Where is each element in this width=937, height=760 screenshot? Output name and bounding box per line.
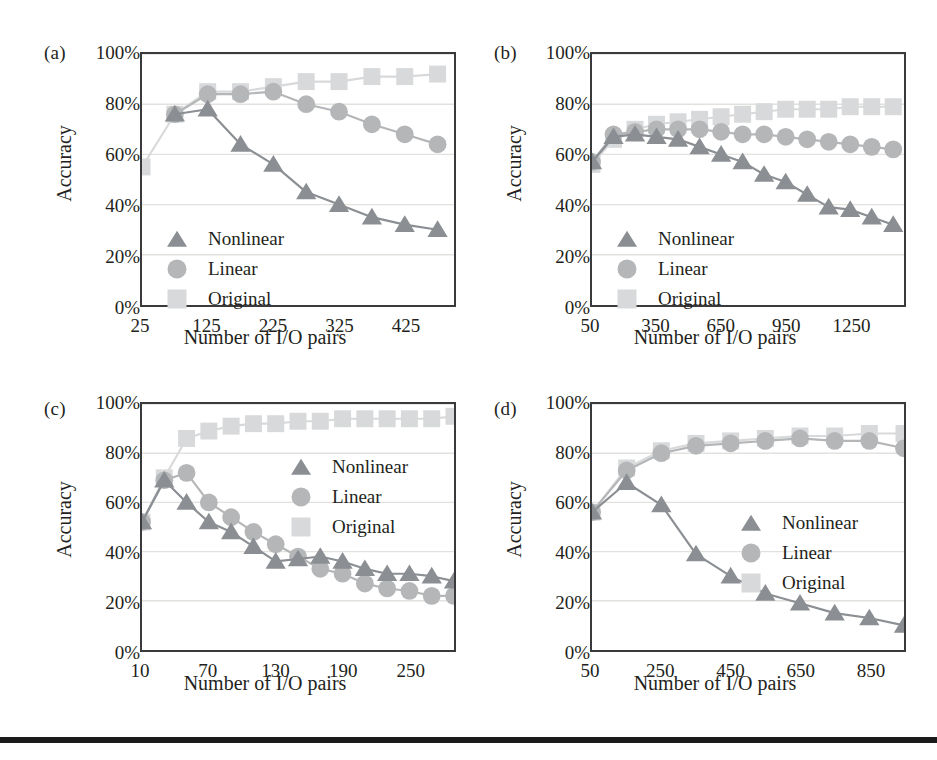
chart-panel-c: (c) Accuracy 0%20%40%60%80%100% 10701301… [30,390,470,720]
y-tick-label: 0% [518,298,590,317]
y-tick-label: 20% [68,593,140,612]
legend-label-linear: Linear [200,258,258,280]
legend-row-original[interactable]: Original [604,284,734,314]
legend-label-linear: Linear [774,542,832,564]
y-tick-label: 0% [68,298,140,317]
y-tick-label: 40% [518,196,590,215]
y-axis-ticks-c: 0%20%40%60%80%100% [62,390,140,720]
y-tick-label: 40% [68,543,140,562]
square-marker-icon [278,516,324,538]
triangle-marker-icon [728,512,774,534]
y-tick-label: 20% [518,247,590,266]
triangle-marker-icon [154,228,200,250]
legend-row-original[interactable]: Original [728,568,858,598]
y-axis-ticks-d: 0%20%40%60%80%100% [512,390,590,720]
legend-a: Nonlinear Linear Original [154,224,284,314]
legend-label-original: Original [200,288,271,310]
circle-marker-icon [278,486,324,508]
legend-label-linear: Linear [650,258,708,280]
square-marker-icon [154,288,200,310]
chart-panel-a: (a) Accuracy 0%20%40%60%80%100% 25125225… [30,34,470,374]
legend-row-linear[interactable]: Linear [604,254,734,284]
legend-row-nonlinear[interactable]: Nonlinear [728,508,858,538]
legend-row-original[interactable]: Original [154,284,284,314]
y-tick-label: 20% [68,247,140,266]
y-tick-label: 100% [68,393,140,412]
legend-label-nonlinear: Nonlinear [324,456,408,478]
y-tick-label: 80% [518,94,590,113]
figure-root: (a) Accuracy 0%20%40%60%80%100% 25125225… [0,0,937,760]
legend-row-nonlinear[interactable]: Nonlinear [154,224,284,254]
x-axis-label-d: Number of I/O pairs [550,672,880,695]
legend-label-linear: Linear [324,486,382,508]
y-tick-label: 100% [518,393,590,412]
legend-row-linear[interactable]: Linear [278,482,408,512]
chart-panel-b: (b) Accuracy 0%20%40%60%80%100% 50350650… [480,34,920,374]
legend-row-original[interactable]: Original [278,512,408,542]
x-axis-label-c: Number of I/O pairs [100,672,430,695]
y-tick-label: 60% [68,145,140,164]
y-tick-label: 40% [518,543,590,562]
chart-panel-d: (d) Accuracy 0%20%40%60%80%100% 50250450… [480,390,920,720]
legend-label-original: Original [324,516,395,538]
legend-label-nonlinear: Nonlinear [200,228,284,250]
y-tick-label: 0% [68,643,140,662]
legend-row-linear[interactable]: Linear [154,254,284,284]
legend-row-nonlinear[interactable]: Nonlinear [604,224,734,254]
y-tick-label: 20% [518,593,590,612]
y-tick-label: 40% [68,196,140,215]
y-tick-label: 80% [68,94,140,113]
legend-label-nonlinear: Nonlinear [650,228,734,250]
x-axis-label-a: Number of I/O pairs [100,326,430,349]
square-marker-icon [604,288,650,310]
triangle-marker-icon [604,228,650,250]
legend-c: Nonlinear Linear Original [278,452,408,542]
legend-label-original: Original [650,288,721,310]
legend-row-linear[interactable]: Linear [728,538,858,568]
y-tick-label: 60% [518,493,590,512]
bottom-rule-divider [0,737,937,743]
y-tick-label: 60% [518,145,590,164]
legend-label-nonlinear: Nonlinear [774,512,858,534]
circle-marker-icon [728,542,774,564]
triangle-marker-icon [278,456,324,478]
y-tick-label: 0% [518,643,590,662]
x-axis-label-b: Number of I/O pairs [550,326,880,349]
circle-marker-icon [604,258,650,280]
legend-b: Nonlinear Linear Original [604,224,734,314]
y-axis-ticks-b: 0%20%40%60%80%100% [512,34,590,374]
y-tick-label: 100% [518,43,590,62]
legend-label-original: Original [774,572,845,594]
legend-row-nonlinear[interactable]: Nonlinear [278,452,408,482]
y-tick-label: 100% [68,43,140,62]
y-axis-ticks-a: 0%20%40%60%80%100% [62,34,140,374]
square-marker-icon [728,572,774,594]
y-tick-label: 80% [68,443,140,462]
y-tick-label: 60% [68,493,140,512]
y-tick-label: 80% [518,443,590,462]
legend-d: Nonlinear Linear Original [728,508,858,598]
circle-marker-icon [154,258,200,280]
